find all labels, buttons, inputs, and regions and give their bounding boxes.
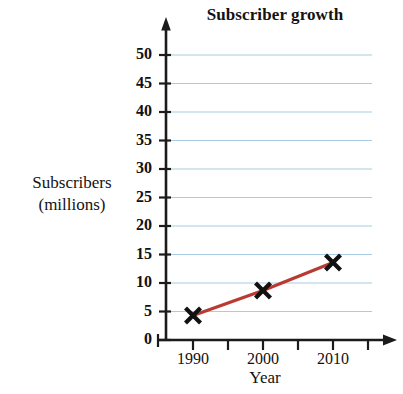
data-point-1990 [186, 308, 201, 323]
y-tick-label-40: 40 [118, 102, 152, 120]
y-tick-label-25: 25 [118, 188, 152, 206]
y-tick-label-50: 50 [118, 45, 152, 63]
y-tick-label-20: 20 [118, 216, 152, 234]
gridlines [166, 55, 372, 312]
data-markers [186, 255, 341, 323]
data-point-2000 [256, 283, 271, 298]
y-tick-label-35: 35 [118, 131, 152, 149]
y-axis [161, 17, 171, 340]
subscriber-growth-chart: Subscriber growth Subscribers (millions)… [0, 0, 403, 394]
x-tick-label-2000: 2000 [228, 350, 298, 368]
y-tick-label-10: 10 [118, 273, 152, 291]
plot-area [0, 0, 403, 394]
x-tick-label-2010: 2010 [298, 350, 368, 368]
y-axis-arrow-icon [161, 17, 171, 31]
x-axis-arrow-icon [383, 335, 397, 346]
data-point-2010 [326, 255, 341, 270]
x-tick-label-1990: 1990 [158, 350, 228, 368]
y-tick-label-0: 0 [118, 330, 152, 348]
x-axis-ticks [158, 334, 368, 350]
y-tick-label-45: 45 [118, 74, 152, 92]
y-tick-label-15: 15 [118, 245, 152, 263]
y-tick-label-5: 5 [118, 302, 152, 320]
y-tick-label-30: 30 [118, 159, 152, 177]
